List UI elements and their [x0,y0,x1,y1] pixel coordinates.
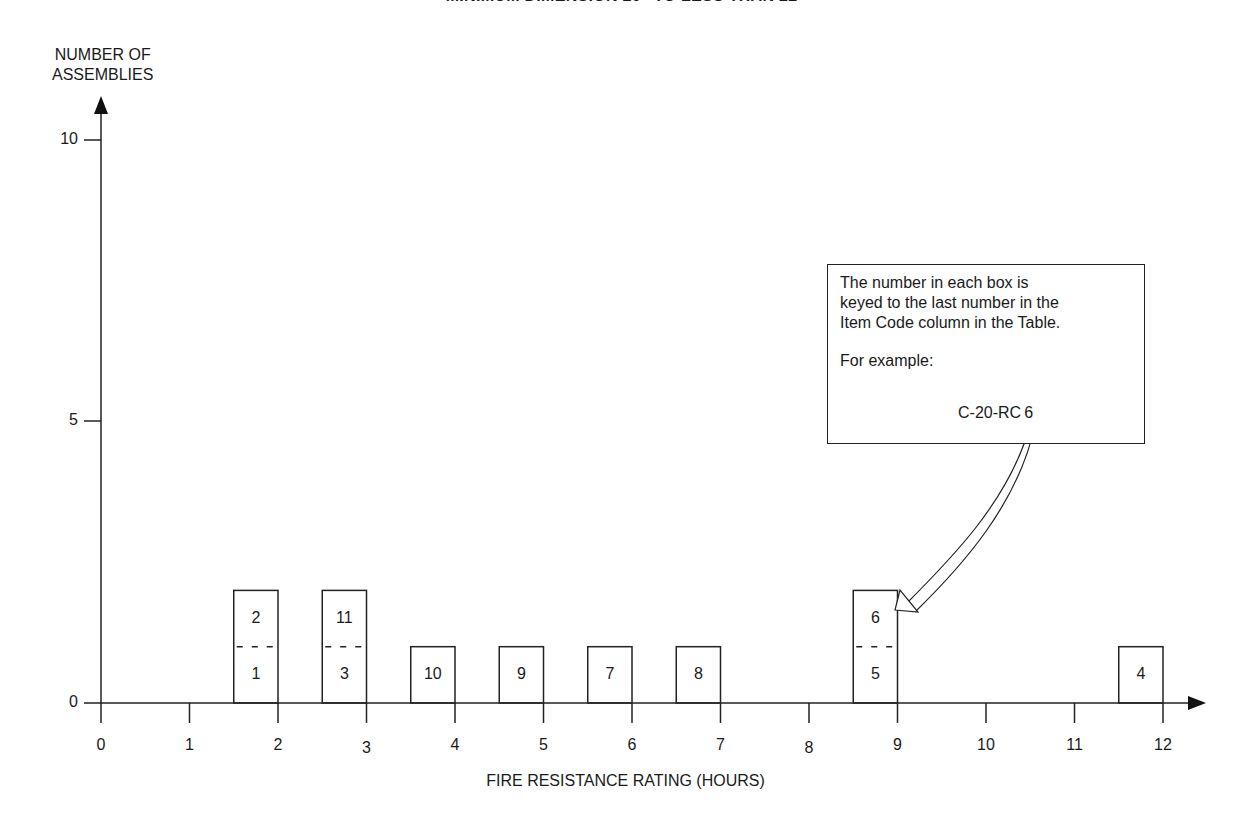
x-tick-7: 7 [701,736,741,754]
y-tick-0: 0 [48,693,78,711]
x-tick-12: 12 [1143,736,1183,754]
box-label-10: 10 [411,665,455,683]
y-axis-arrow-icon [94,96,108,114]
x-tick-2: 2 [258,736,298,754]
box-label-2: 2 [234,609,278,627]
box-label-7: 7 [588,665,632,683]
note-example-code: C-20-RC6 [958,403,1033,423]
x-tick-0: 0 [81,736,121,754]
x-tick-8: 8 [789,739,829,757]
x-tick-6: 6 [612,736,652,754]
box-label-4: 4 [1119,665,1163,683]
x-tick-10: 10 [966,736,1006,754]
box-label-5: 5 [853,665,897,683]
pointer-arrow-icon [895,590,918,612]
annotation-box: The number in each box is keyed to the l… [827,264,1145,444]
x-tick-3: 3 [347,739,387,757]
x-tick-5: 5 [524,736,564,754]
box-label-3: 3 [322,665,366,683]
box-label-9: 9 [499,665,543,683]
note-line1: The number in each box is [840,273,1132,293]
note-example-label: For example: [840,351,1132,371]
x-axis-label: FIRE RESISTANCE RATING (HOURS) [0,772,1251,790]
note-line2: keyed to the last number in the [840,293,1132,313]
y-tick-10: 10 [48,130,78,148]
x-tick-4: 4 [435,736,475,754]
x-tick-9: 9 [878,736,918,754]
x-axis-arrow-icon [1188,696,1206,710]
box-label-11: 11 [322,609,366,627]
x-tick-1: 1 [170,736,210,754]
x-tick-11: 11 [1055,736,1095,754]
box-label-1: 1 [234,665,278,683]
note-line3: Item Code column in the Table. [840,313,1132,333]
box-label-8: 8 [676,665,720,683]
box-label-6: 6 [853,609,897,627]
y-tick-5: 5 [48,411,78,429]
